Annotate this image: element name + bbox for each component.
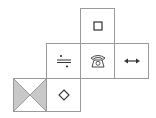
- diamond-icon: [58, 89, 70, 101]
- face-middle-center-telephone: [80, 43, 115, 79]
- face-bottom-left-hourglass: [13, 78, 47, 112]
- small-square-icon: [93, 21, 103, 31]
- face-middle-right-arrow: [114, 43, 149, 79]
- face-bottom-center-diamond: [46, 78, 81, 112]
- telephone-icon: [90, 54, 106, 68]
- shaded-triangles-icon: [14, 79, 46, 111]
- face-top-square: [80, 8, 115, 44]
- face-middle-left-division: [46, 43, 81, 79]
- division-sign-icon: [56, 53, 72, 69]
- left-right-arrow-icon: [124, 57, 140, 65]
